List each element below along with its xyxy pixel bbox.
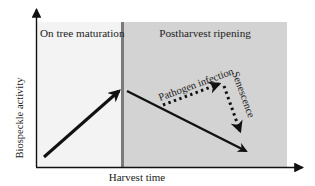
x-axis-label: Harvest time (109, 171, 166, 183)
on-tree-region (37, 22, 122, 167)
harvest-divider (121, 22, 124, 167)
postharvest-region (124, 22, 287, 167)
biospeckle-diagram: On tree maturation Postharvest ripening … (0, 0, 315, 186)
y-axis-label: Biospeckle activity (14, 77, 25, 159)
postharvest-label: Postharvest ripening (159, 27, 251, 39)
on-tree-label: On tree maturation (40, 27, 125, 39)
